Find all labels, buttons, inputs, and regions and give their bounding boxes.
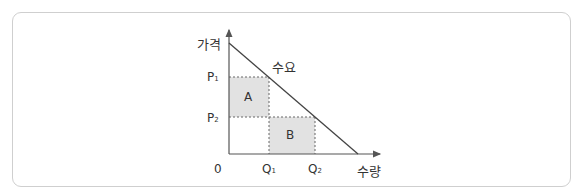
q1-label: Q1	[262, 162, 276, 176]
region-a-label: A	[244, 90, 253, 104]
p1-label: P1	[207, 70, 219, 84]
x-axis-label: 수량	[357, 164, 381, 179]
demand-diagram: 가격 수요 P1 P2 A B 0 Q1 Q2 수량	[0, 0, 579, 196]
p2-label: P2	[207, 111, 219, 125]
curve-label: 수요	[272, 60, 296, 75]
q2-label: Q2	[308, 162, 322, 176]
y-axis-label: 가격	[197, 37, 221, 52]
region-b-label: B	[286, 128, 294, 142]
origin-label: 0	[214, 162, 222, 176]
